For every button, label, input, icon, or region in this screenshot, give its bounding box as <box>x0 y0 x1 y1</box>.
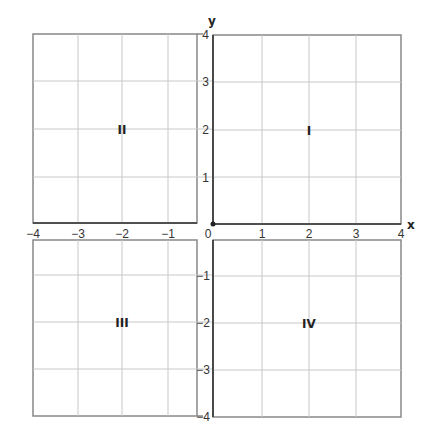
x-tick: 2 <box>306 227 313 241</box>
y-tick: −2 <box>196 316 210 330</box>
origin-dot <box>211 222 216 227</box>
x-tick: 1 <box>259 227 266 241</box>
x-tick: −1 <box>161 227 175 241</box>
y-axis-label: y <box>208 14 216 28</box>
quadrant-label-ii: II <box>118 123 127 137</box>
y-tick: 4 <box>202 28 209 42</box>
y-tick: −1 <box>196 269 210 283</box>
y-tick: 2 <box>202 123 209 137</box>
x-tick-labels: −4 −3 −2 −1 0 1 2 3 4 <box>26 227 405 241</box>
x-tick: −4 <box>26 227 40 241</box>
quadrant-label-i: I <box>307 124 311 138</box>
origin-label: 0 <box>205 227 212 241</box>
quadrant-label-iv: IV <box>302 317 316 331</box>
x-tick: 4 <box>398 227 405 241</box>
y-tick: −3 <box>196 363 210 377</box>
x-axis-label: x <box>407 218 415 232</box>
y-tick: 1 <box>202 171 209 185</box>
y-tick: −4 <box>196 410 210 424</box>
x-tick: 3 <box>353 227 360 241</box>
x-tick: −3 <box>71 227 85 241</box>
y-tick-labels: 4 3 2 1 −1 −2 −3 −4 <box>196 28 210 424</box>
coordinate-plane: y x −4 −3 −2 −1 0 1 2 3 4 4 3 2 1 −1 −2 … <box>0 0 434 441</box>
axes <box>33 35 401 417</box>
y-tick: 3 <box>202 75 209 89</box>
x-tick: −2 <box>115 227 129 241</box>
quadrant-label-iii: III <box>115 316 128 330</box>
